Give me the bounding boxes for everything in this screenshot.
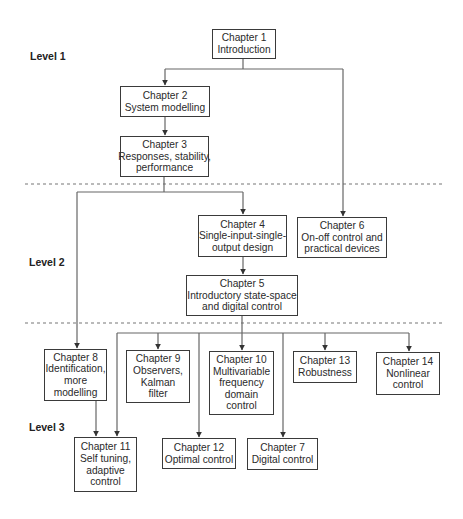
- chapter-title: domain: [225, 389, 258, 401]
- chapter-number: Chapter 8: [53, 352, 98, 364]
- chapter-title: Responses, stability,: [118, 151, 211, 163]
- node-chapter-6: Chapter 6 On-off control and practical d…: [297, 217, 387, 258]
- level-1-label: Level 1: [30, 50, 66, 62]
- chapter-title: frequency: [219, 377, 264, 389]
- chapter-title: Kalman: [141, 377, 176, 389]
- chapter-title: control: [90, 476, 121, 488]
- chapter-title: Single-input-single-: [199, 230, 286, 242]
- chapter-number: Chapter 9: [136, 353, 181, 365]
- chapter-number: Chapter 6: [320, 220, 365, 232]
- chapter-number: Chapter 2: [143, 90, 188, 102]
- chapter-number: Chapter 5: [220, 278, 265, 290]
- chapter-title: Nonlinear: [386, 368, 430, 380]
- node-chapter-7: Chapter 7 Digital control: [247, 438, 318, 470]
- chapter-title: Identification,: [45, 363, 105, 375]
- node-chapter-14: Chapter 14 Nonlinear control: [376, 352, 440, 395]
- chapter-number: Chapter 11: [81, 441, 131, 453]
- chapter-title: Robustness: [298, 367, 352, 379]
- chapter-title: Self tuning,: [80, 453, 131, 465]
- chapter-title: modelling: [54, 387, 98, 399]
- level-3-label: Level 3: [29, 421, 65, 433]
- chapter-title: Multivariable: [213, 366, 270, 378]
- chapter-title: On-off control and: [301, 232, 382, 244]
- node-chapter-3: Chapter 3 Responses, stability, performa…: [120, 136, 209, 177]
- chapter-title: control: [226, 400, 257, 412]
- chapter-title: Digital control: [252, 454, 314, 466]
- level-2-label: Level 2: [29, 256, 65, 268]
- chapter-title: filter: [148, 388, 167, 400]
- chapter-title: control: [393, 379, 424, 391]
- chapter-title: Introduction: [217, 44, 270, 56]
- node-chapter-12: Chapter 12 Optimal control: [162, 438, 236, 469]
- chapter-number: Chapter 13: [300, 355, 350, 367]
- chapter-title: System modelling: [125, 102, 205, 114]
- node-chapter-8: Chapter 8 Identification, more modelling: [44, 349, 107, 401]
- chapter-title: Optimal control: [165, 454, 234, 466]
- chapter-title: practical devices: [304, 243, 379, 255]
- chapter-number: Chapter 1: [222, 32, 267, 44]
- chapter-number: Chapter 10: [216, 354, 266, 366]
- chapter-title: performance: [136, 162, 193, 174]
- node-chapter-2: Chapter 2 System modelling: [120, 86, 210, 117]
- chapter-number: Chapter 4: [220, 219, 265, 231]
- node-chapter-9: Chapter 9 Observers, Kalman filter: [126, 350, 190, 403]
- node-chapter-11: Chapter 11 Self tuning, adaptive control: [74, 437, 137, 492]
- chapter-title: output design: [212, 242, 273, 254]
- chapter-number: Chapter 7: [260, 442, 305, 454]
- node-chapter-13: Chapter 13 Robustness: [293, 351, 357, 383]
- node-chapter-5: Chapter 5 Introductory state-space and d…: [186, 275, 298, 316]
- chapter-title: adaptive: [86, 465, 125, 477]
- node-chapter-1: Chapter 1 Introduction: [212, 29, 276, 59]
- node-chapter-10: Chapter 10 Multivariable frequency domai…: [209, 351, 274, 415]
- node-chapter-4: Chapter 4 Single-input-single- output de…: [198, 215, 287, 257]
- chapter-number: Chapter 12: [174, 442, 224, 454]
- chapter-title: and digital control: [202, 301, 282, 313]
- chapter-number: Chapter 14: [383, 356, 433, 368]
- chapter-number: Chapter 3: [142, 139, 187, 151]
- chapter-title: more: [64, 375, 87, 387]
- chapter-title: Introductory state-space: [187, 290, 296, 302]
- chapter-title: Observers,: [133, 365, 183, 377]
